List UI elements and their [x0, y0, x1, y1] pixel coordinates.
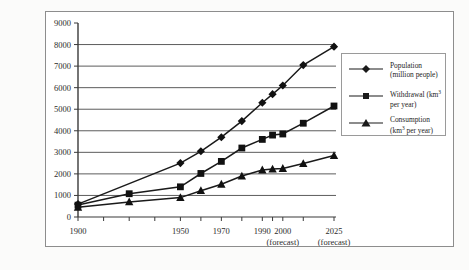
chart-legend: Population (million people) Withdrawal (… [341, 53, 446, 136]
svg-text:7000: 7000 [54, 61, 71, 71]
square-data-point [238, 145, 245, 152]
legend-item-population[interactable]: Population (million people) [342, 60, 447, 86]
y-tick-labels: 0100020003000400050006000700080009000 [54, 18, 71, 222]
svg-text:(forecast): (forecast) [267, 237, 300, 247]
svg-text:0: 0 [67, 212, 71, 222]
svg-text:8000: 8000 [54, 40, 71, 50]
square-data-point [300, 120, 307, 127]
diamond-marker-icon [348, 63, 384, 75]
diamond-data-point [197, 147, 205, 155]
square-data-point [269, 132, 276, 139]
legend-label-withdrawal: Withdrawal (km3 per year) [390, 88, 446, 109]
svg-text:2000: 2000 [274, 226, 291, 236]
svg-text:2000: 2000 [54, 169, 71, 179]
legend-label-consumption: Consumption (km3 per year) [390, 115, 446, 136]
square-data-point [218, 158, 225, 165]
square-data-point [259, 136, 266, 143]
square-marker-icon [348, 90, 384, 102]
gridlines [78, 45, 336, 196]
legend-consumption-line1: Consumption [390, 115, 430, 124]
svg-text:3000: 3000 [54, 147, 71, 157]
legend-withdrawal-line2: per year) [390, 100, 416, 109]
x-tick-marks [78, 217, 334, 221]
diamond-data-point [176, 159, 184, 167]
square-data-point [279, 131, 286, 138]
chart-canvas: 0100020003000400050006000700080009000 19… [0, 0, 469, 270]
legend-population-line2: (million people) [390, 70, 438, 79]
legend-withdrawal-sup: 3 [438, 89, 441, 95]
series-3 [74, 151, 338, 211]
x-tick-labels: 19001950197019902000(forecast)2025(forec… [70, 226, 351, 247]
legend-label-population: Population (million people) [390, 61, 446, 80]
svg-text:1900: 1900 [70, 226, 87, 236]
svg-text:4000: 4000 [54, 126, 71, 136]
square-data-point [126, 190, 133, 197]
square-data-point [177, 183, 184, 190]
square-data-point [331, 103, 338, 110]
svg-text:2025: 2025 [326, 226, 343, 236]
series-2 [75, 103, 338, 209]
svg-text:1970: 1970 [213, 226, 230, 236]
svg-text:1950: 1950 [172, 226, 189, 236]
svg-text:5000: 5000 [54, 104, 71, 114]
diamond-data-point [330, 43, 338, 51]
legend-consumption-line2b: per year) [405, 127, 433, 136]
legend-withdrawal-line1: Withdrawal (km [390, 90, 438, 99]
svg-text:1000: 1000 [54, 190, 71, 200]
square-data-point [197, 170, 204, 177]
data-series-layer [74, 43, 338, 211]
legend-population-line1: Population [390, 61, 422, 70]
legend-item-withdrawal[interactable]: Withdrawal (km3 per year) [342, 87, 447, 113]
triangle-marker-icon [348, 117, 384, 129]
svg-text:6000: 6000 [54, 83, 71, 93]
legend-item-consumption[interactable]: Consumption (km3 per year) [342, 114, 447, 140]
legend-consumption-line2a: (km [390, 127, 402, 136]
svg-text:(forecast): (forecast) [318, 237, 351, 247]
svg-text:1990: 1990 [254, 226, 271, 236]
svg-text:9000: 9000 [54, 18, 71, 28]
